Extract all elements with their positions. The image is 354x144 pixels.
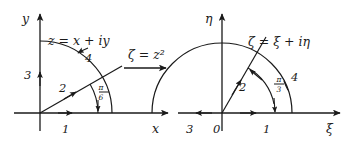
arc-direction-stub bbox=[284, 81, 288, 90]
angle-denominator-6: 6 bbox=[99, 93, 104, 102]
figure-canvas: z = x + iy 4 2 1 3 π 6 x y ζ = z² bbox=[0, 0, 354, 144]
x-axis-label: x bbox=[152, 121, 159, 136]
ray-label-2: 2 bbox=[238, 80, 246, 94]
transform-annotation: ζ = z² bbox=[124, 47, 166, 68]
arc-label-4: 4 bbox=[290, 70, 298, 84]
xi-tick-label-1: 1 bbox=[263, 122, 270, 136]
quarter-circle-arc bbox=[40, 41, 112, 113]
angle-numerator-pi: π bbox=[98, 83, 105, 92]
radial-ray bbox=[40, 66, 122, 113]
angle-denominator-3: 3 bbox=[277, 85, 282, 94]
angle-arc-pi-over-3 bbox=[248, 68, 274, 104]
right-panel-zeta-plane: ζ = ξ + iη 4 2 0 1 3 π 3 ξ η bbox=[152, 11, 340, 136]
zeta-plane-equation-label: ζ = ξ + iη bbox=[248, 34, 310, 49]
xi-axis-label: ξ bbox=[326, 121, 334, 136]
ray-inward-arrow bbox=[250, 70, 262, 80]
y-axis-label: y bbox=[21, 11, 30, 26]
z-plane-equation-label: z = x + iy bbox=[47, 33, 110, 48]
conformal-map-figure: z = x + iy 4 2 1 3 π 6 x y ζ = z² bbox=[0, 0, 354, 144]
xi-negative-tick-label-3: 3 bbox=[186, 122, 193, 136]
left-panel-z-plane: z = x + iy 4 2 1 3 π 6 x y bbox=[14, 11, 168, 136]
transform-equation-label: ζ = z² bbox=[128, 47, 165, 62]
y-tick-label-3: 3 bbox=[24, 68, 31, 82]
origin-label-0: 0 bbox=[213, 122, 220, 136]
ray-label-2: 2 bbox=[58, 81, 66, 95]
arc-label-4: 4 bbox=[84, 51, 92, 65]
angle-arc-arrow-down bbox=[274, 98, 275, 112]
x-tick-label-1: 1 bbox=[62, 122, 69, 136]
eta-axis-label: η bbox=[205, 11, 213, 26]
angle-arc-pi-over-6 bbox=[90, 84, 98, 113]
